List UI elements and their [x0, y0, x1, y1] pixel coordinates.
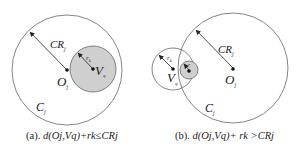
svg-text:rk: rk: [167, 54, 173, 63]
center-oj-dot: [231, 67, 235, 71]
svg-text:CRj: CRj: [50, 38, 66, 52]
cr-subscript: j: [63, 46, 66, 52]
panel-a: CRj rk Oj Vq Cj: [12, 15, 122, 125]
vq-subscript: q: [175, 81, 178, 86]
center-oj-dot: [65, 68, 69, 72]
oj-subscript: j: [65, 84, 68, 90]
caption-b: (b). d(Oj,Vq)+ rk >CRj: [175, 130, 274, 141]
panel-b: CRj rk r Oj Vq Cj: [152, 13, 288, 123]
caption-a: (a). d(Oj,Vq)+rk≤CRj: [26, 130, 118, 141]
svg-text:Oj: Oj: [57, 74, 68, 90]
cr-subscript: j: [231, 51, 234, 57]
caption-a-expression: d(Oj,Vq)+rk≤CRj: [43, 130, 118, 141]
caption-b-expression: d(Oj,Vq)+ rk >CRj: [193, 130, 275, 141]
cj-subscript: j: [43, 109, 46, 115]
cr-label: CR: [218, 43, 232, 55]
svg-text:Oj: Oj: [225, 72, 236, 88]
rk-subscript: k: [170, 58, 173, 63]
cr-label: CR: [50, 38, 64, 50]
svg-text:Cj: Cj: [36, 100, 46, 115]
svg-text:Vq: Vq: [167, 70, 178, 86]
caption-a-prefix: (a).: [26, 130, 43, 141]
small-center-dot: [187, 69, 191, 73]
oj-subscript: j: [233, 82, 236, 88]
cj-subscript: j: [212, 110, 215, 116]
svg-text:CRj: CRj: [218, 43, 234, 57]
svg-text:Cj: Cj: [205, 101, 215, 116]
caption-b-prefix: (b).: [175, 130, 193, 141]
